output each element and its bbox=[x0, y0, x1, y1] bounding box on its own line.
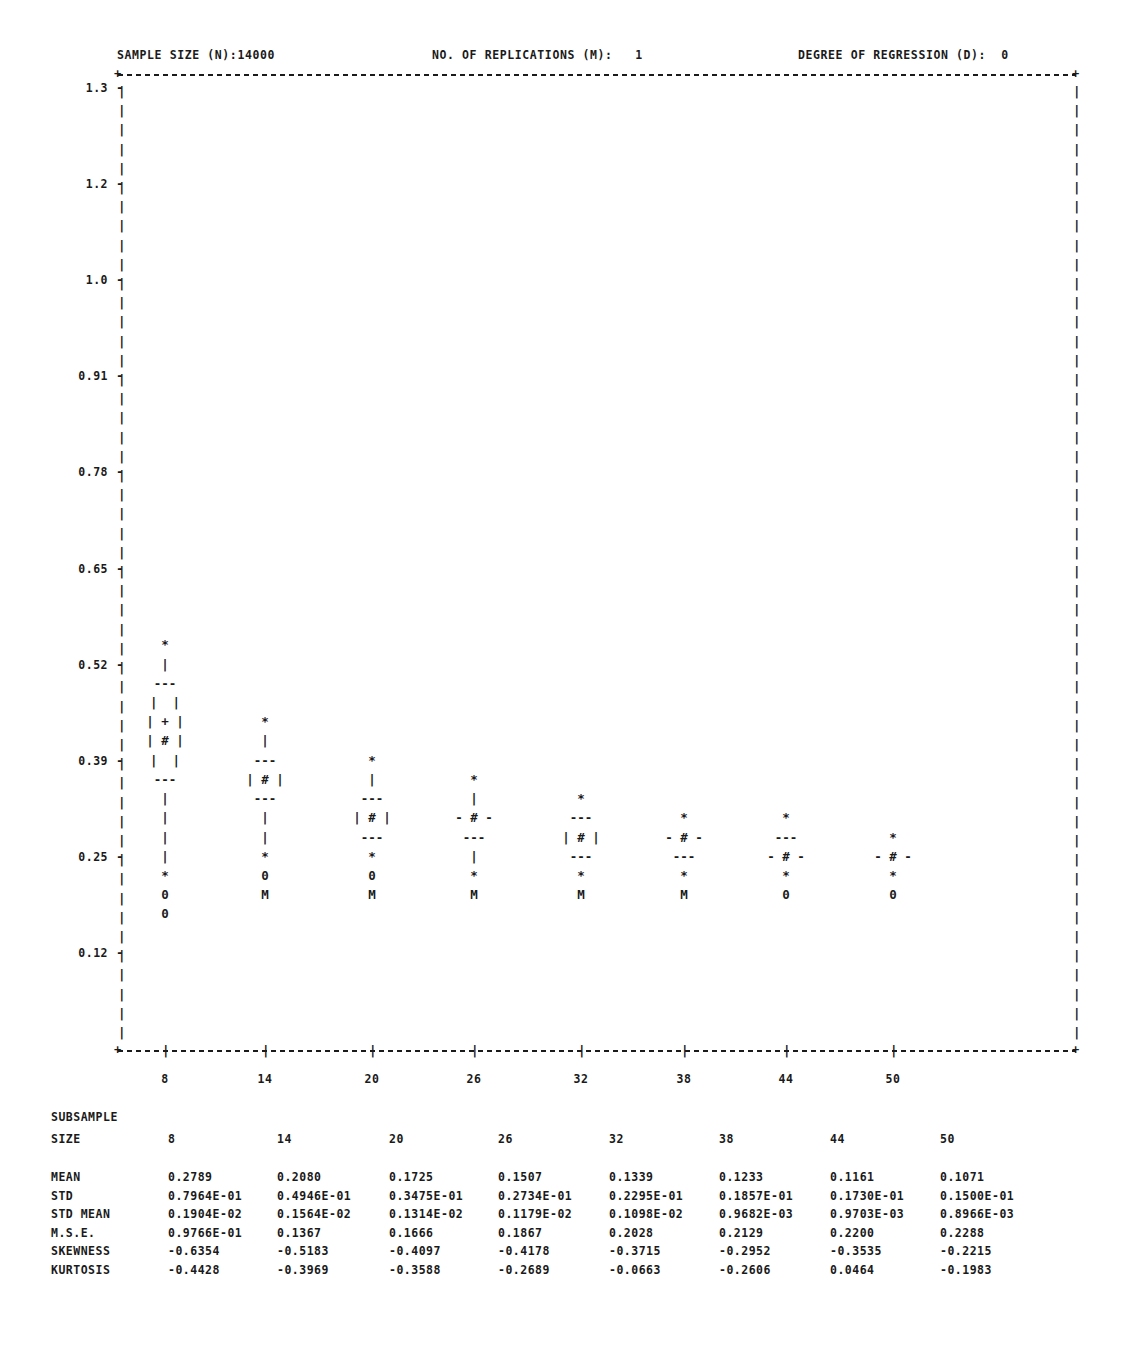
stats-row: M.S.E.0.9766E-010.13670.16660.18670.2028… bbox=[51, 1226, 1111, 1245]
box-plot-glyph: | bbox=[242, 812, 288, 824]
stats-title-size: SIZE bbox=[51, 1132, 81, 1146]
box-plot-glyph: * bbox=[349, 755, 395, 767]
plot-corner-bottom-left: + bbox=[114, 1044, 121, 1056]
box-plot-glyph: M bbox=[558, 889, 604, 901]
y-axis-label: 1.0 bbox=[48, 273, 108, 287]
stats-col-header-3: 26 bbox=[498, 1132, 513, 1146]
stats-cell: -0.4428 bbox=[168, 1263, 220, 1277]
stats-cell: 0.2080 bbox=[277, 1170, 322, 1184]
x-axis-label: 32 bbox=[566, 1072, 596, 1086]
box-plot-glyph: 0 bbox=[142, 908, 188, 920]
stats-cell: -0.5183 bbox=[277, 1244, 329, 1258]
box-plot-glyph: --- bbox=[142, 774, 188, 786]
box-plot-glyph: | bbox=[142, 832, 188, 844]
y-axis-label: 0.39 bbox=[48, 754, 108, 768]
stats-cell: 0.2200 bbox=[830, 1226, 875, 1240]
box-plot-glyph: | bbox=[451, 851, 497, 863]
stats-cell: 0.1730E-01 bbox=[830, 1189, 904, 1203]
box-plot-glyph: | bbox=[451, 793, 497, 805]
box-plot-glyph: M bbox=[349, 889, 395, 901]
box-plot-glyph: | | bbox=[142, 755, 188, 767]
stats-cell: 0.2288 bbox=[940, 1226, 985, 1240]
y-axis-label: 0.52 bbox=[48, 658, 108, 672]
box-plot-glyph: --- bbox=[451, 832, 497, 844]
box-plot-glyph: | bbox=[142, 793, 188, 805]
stats-cell: 0.1857E-01 bbox=[719, 1189, 793, 1203]
stats-cell: 0.1179E-02 bbox=[498, 1207, 572, 1221]
stats-cell: 0.1867 bbox=[498, 1226, 543, 1240]
y-axis-tick-mark: - bbox=[116, 657, 124, 672]
y-axis-label: 1.2 bbox=[48, 177, 108, 191]
box-plot-glyph: * bbox=[558, 870, 604, 882]
stats-cell: 0.2129 bbox=[719, 1226, 764, 1240]
box-plot-glyph: * bbox=[242, 716, 288, 728]
x-axis-label: 26 bbox=[459, 1072, 489, 1086]
box-plot-glyph: M bbox=[661, 889, 707, 901]
y-axis-label: 0.91 bbox=[48, 369, 108, 383]
x-axis-tick-mark: | bbox=[369, 1043, 377, 1058]
stats-cell: 0.1666 bbox=[389, 1226, 434, 1240]
box-plot-glyph: | # | bbox=[142, 735, 188, 747]
stats-title-row-1: SUBSAMPLE bbox=[51, 1110, 1111, 1129]
box-plot-glyph: | bbox=[142, 851, 188, 863]
box-plot-glyph: --- bbox=[242, 755, 288, 767]
box-plot-glyph: * bbox=[763, 870, 809, 882]
box-plot-glyph: * bbox=[142, 870, 188, 882]
plot-top-border bbox=[118, 74, 1076, 76]
box-plot-glyph: * bbox=[451, 870, 497, 882]
y-axis-label: 1.3 bbox=[48, 81, 108, 95]
stats-cell: 0.1564E-02 bbox=[277, 1207, 351, 1221]
box-plot-glyph: 0 bbox=[142, 889, 188, 901]
box-plot-glyph: * bbox=[242, 851, 288, 863]
stats-col-header-2: 20 bbox=[389, 1132, 404, 1146]
stats-row: KURTOSIS-0.4428-0.3969-0.3588-0.2689-0.0… bbox=[51, 1263, 1111, 1282]
stats-cell: -0.3969 bbox=[277, 1263, 329, 1277]
box-plot-glyph: | | bbox=[142, 697, 188, 709]
stats-row-label: STD MEAN bbox=[51, 1207, 110, 1221]
stats-row: SKEWNESS-0.6354-0.5183-0.4097-0.4178-0.3… bbox=[51, 1244, 1111, 1263]
y-axis-tick-mark: - bbox=[116, 849, 124, 864]
box-plot-glyph: * bbox=[558, 793, 604, 805]
stats-cell: 0.4946E-01 bbox=[277, 1189, 351, 1203]
stats-cell: 0.1725 bbox=[389, 1170, 434, 1184]
stats-cell: 0.2789 bbox=[168, 1170, 213, 1184]
y-axis-tick-mark: - bbox=[116, 561, 124, 576]
stats-row: STD0.7964E-010.4946E-010.3475E-010.2734E… bbox=[51, 1189, 1111, 1208]
stats-row-label: SKEWNESS bbox=[51, 1244, 110, 1258]
stats-row-label: KURTOSIS bbox=[51, 1263, 110, 1277]
box-plot-glyph: | bbox=[349, 774, 395, 786]
stats-row: STD MEAN0.1904E-020.1564E-020.1314E-020.… bbox=[51, 1207, 1111, 1226]
stats-cell: 0.2295E-01 bbox=[609, 1189, 683, 1203]
box-plot-glyph: * bbox=[763, 812, 809, 824]
stats-cell: 0.2028 bbox=[609, 1226, 654, 1240]
box-plot-glyph: --- bbox=[558, 851, 604, 863]
plot-corner-top-left: + bbox=[114, 68, 121, 80]
x-axis-tick-mark: | bbox=[471, 1043, 479, 1058]
stats-cell: -0.1983 bbox=[940, 1263, 992, 1277]
stats-cell: 0.1339 bbox=[609, 1170, 654, 1184]
stats-cell: 0.1071 bbox=[940, 1170, 985, 1184]
y-axis-tick-mark: - bbox=[116, 176, 124, 191]
box-plot-glyph: --- bbox=[142, 678, 188, 690]
stats-col-header-0: 8 bbox=[168, 1132, 175, 1146]
stats-cell: 0.1314E-02 bbox=[389, 1207, 463, 1221]
y-axis-tick-mark: - bbox=[116, 272, 124, 287]
stats-col-header-6: 44 bbox=[830, 1132, 845, 1146]
box-plot-glyph: | bbox=[142, 812, 188, 824]
box-plot-glyph: - # - bbox=[451, 812, 497, 824]
box-plot-glyph: | bbox=[242, 735, 288, 747]
stats-cell: 0.1098E-02 bbox=[609, 1207, 683, 1221]
stats-col-header-7: 50 bbox=[940, 1132, 955, 1146]
y-axis-label: 0.65 bbox=[48, 562, 108, 576]
x-axis-tick-mark: | bbox=[262, 1043, 270, 1058]
stats-row-label: M.S.E. bbox=[51, 1226, 96, 1240]
box-plot-glyph: | bbox=[242, 832, 288, 844]
box-plot-glyph: * bbox=[661, 812, 707, 824]
box-plot-glyph: --- bbox=[661, 851, 707, 863]
plot-corner-top-right: + bbox=[1072, 68, 1079, 80]
stats-cell: 0.7964E-01 bbox=[168, 1189, 242, 1203]
box-plot-glyph: M bbox=[242, 889, 288, 901]
box-plot-glyph: * bbox=[142, 639, 188, 651]
stats-row-label: STD bbox=[51, 1189, 73, 1203]
stats-cell: 0.8966E-03 bbox=[940, 1207, 1014, 1221]
